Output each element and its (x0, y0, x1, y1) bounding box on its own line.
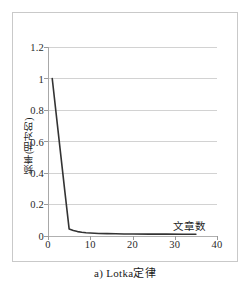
figure-container: 1.2 1 0.8 0.6 0.4 0.2 0 (0, 0, 250, 287)
y-tick-label: 1.2 (30, 42, 44, 53)
y-axis-title: 频率(相对的) (22, 96, 36, 196)
plot-area (48, 47, 217, 236)
y-tick-mark (44, 110, 48, 111)
x-axis-line (48, 236, 217, 237)
y-tick-mark (44, 173, 48, 174)
chart-canvas: 1.2 1 0.8 0.6 0.4 0.2 0 (0, 0, 250, 287)
x-tick-label: 0 (45, 239, 50, 250)
y-axis-line (48, 47, 49, 237)
x-tick-label: 10 (85, 239, 96, 250)
x-tick-label: 20 (127, 239, 138, 250)
x-axis-title: 文章数 (173, 218, 206, 233)
y-tick-mark (44, 47, 48, 48)
x-tick-label: 40 (212, 239, 223, 250)
x-axis-tick-labels: 0 10 20 30 40 (48, 239, 217, 253)
y-tick-label: 0.2 (30, 199, 44, 210)
y-tick-mark (44, 141, 48, 142)
y-tick-mark (44, 204, 48, 205)
y-tick-mark (44, 78, 48, 79)
x-tick-label: 30 (169, 239, 180, 250)
series-line-lotka (48, 47, 217, 236)
figure-caption: a) Lotka定律 (0, 264, 250, 280)
